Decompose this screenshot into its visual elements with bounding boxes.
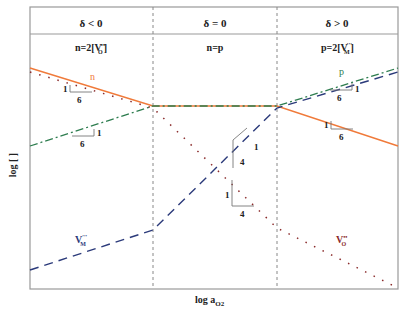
region-1-condition: δ < 0 [80,17,103,29]
p-label: p [339,66,344,77]
region-3-neutrality: p=2[V′′′M] [321,42,354,55]
n-label: n [90,71,95,82]
region-1-neutrality: n=2[V••O] [75,42,107,55]
region-2-neutrality: n=p [207,42,224,53]
vo-line [30,72,398,288]
slope-vm-rise: 1 [254,142,259,152]
slope-vo-run: 4 [240,209,245,219]
slope-n-right-rise: 1 [324,120,329,130]
y-axis-label: log [ ] [7,153,18,177]
region-3-condition: δ > 0 [326,17,349,29]
slope-p-left-run: 6 [80,139,85,149]
slope-n-left-run: 6 [77,95,82,105]
vo-label: V••O [336,234,347,247]
x-axis-label: log aO2 [195,294,225,308]
slope-n-left-rise: 1 [63,84,68,94]
vm-label: V′′′M [75,234,88,247]
slope-vo-rise: 1 [225,190,230,200]
slope-vm-run: 4 [240,157,245,167]
slope-p-right-run: 6 [337,93,342,103]
slope-n-right-run: 6 [339,132,344,142]
region-2-condition: δ = 0 [204,17,227,29]
slope-p-right-rise: 1 [355,84,360,94]
slope-markers [70,83,353,206]
brouwer-diagram: δ < 0 δ = 0 δ > 0 n=2[V••O] n=p p=2[V′′′… [0,0,402,309]
slope-p-left-rise: 1 [97,128,102,138]
